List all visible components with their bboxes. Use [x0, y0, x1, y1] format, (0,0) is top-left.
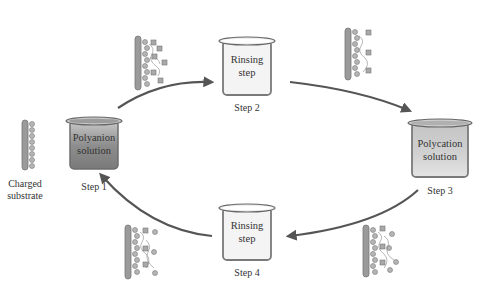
- film-after-step2-icon: [345, 28, 371, 80]
- arrow-step2-to-step3: [290, 82, 408, 110]
- beaker-step4: Rinsing step: [218, 202, 276, 262]
- arrow-step3-to-step4: [290, 190, 418, 236]
- arrow-step1-to-step2: [118, 82, 210, 108]
- beaker-step1: Polyanion solution: [65, 115, 123, 171]
- beaker-step3-label-line2: solution: [407, 150, 473, 163]
- beaker-step3-label-line1: Polycation: [407, 137, 473, 150]
- beaker-step3: Polycation solution: [407, 117, 473, 179]
- film-after-step1-icon: [135, 36, 167, 90]
- substrate-label-line2: substrate: [2, 190, 48, 202]
- step4-caption: Step 4: [217, 267, 277, 279]
- step3-caption: Step 3: [410, 185, 470, 197]
- film-after-step4-icon: [125, 225, 158, 279]
- charged-substrate-icon: [22, 120, 35, 170]
- beaker-step4-label-line1: Rinsing: [218, 219, 276, 232]
- step2-caption: Step 2: [217, 102, 277, 114]
- beaker-step4-label-line2: step: [218, 232, 276, 245]
- beaker-step2: Rinsing step: [218, 35, 276, 97]
- beaker-step1-label-line1: Polyanion: [65, 131, 123, 144]
- substrate-label: Charged substrate: [2, 178, 48, 202]
- beaker-step2-label-line2: step: [218, 66, 276, 79]
- step1-caption: Step 1: [64, 181, 124, 193]
- substrate-label-line1: Charged: [2, 178, 48, 190]
- beaker-step2-label-line1: Rinsing: [218, 53, 276, 66]
- beaker-step1-label-line2: solution: [65, 144, 123, 157]
- film-after-step3-icon: [363, 225, 399, 277]
